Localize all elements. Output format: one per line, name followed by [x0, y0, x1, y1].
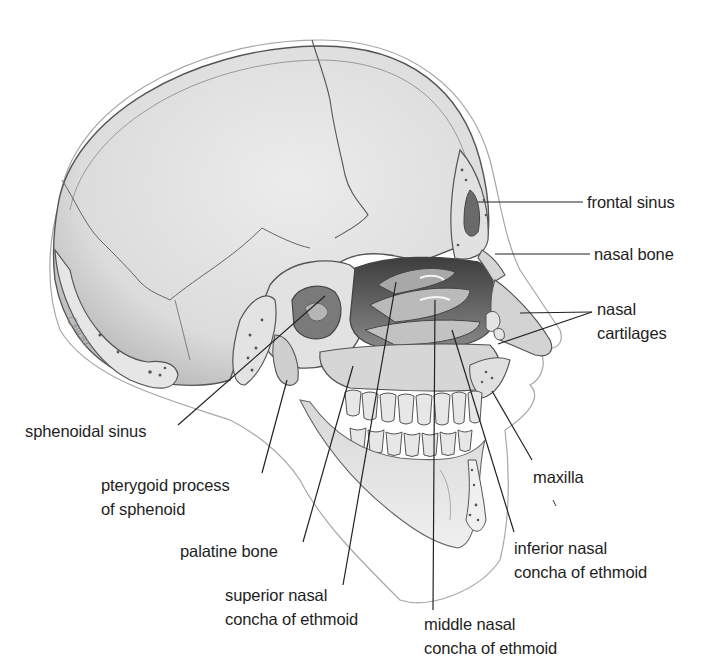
- label-palatine-bone: palatine bone: [180, 539, 278, 563]
- nasal-cavity: [350, 257, 494, 350]
- nose: [486, 280, 552, 356]
- label-middle-nasal-concha: middle nasal concha of ethmoid: [424, 612, 557, 660]
- label-pterygoid-process: pterygoid process of sphenoid: [101, 473, 230, 521]
- skull-diagram: ◯ℓɯ 83: [0, 0, 721, 667]
- stray-mark: [553, 500, 556, 506]
- leader-maxilla: [492, 391, 532, 460]
- leader-nasal-cartilages-a: [520, 312, 592, 313]
- label-maxilla: maxilla: [533, 465, 584, 489]
- teeth: [345, 390, 482, 457]
- label-nasal-cartilages: nasal cartilages: [597, 297, 667, 345]
- label-frontal-sinus: frontal sinus: [587, 190, 675, 214]
- label-superior-nasal-concha: superior nasal concha of ethmoid: [225, 583, 358, 631]
- label-nasal-bone: nasal bone: [594, 242, 674, 266]
- label-sphenoidal-sinus: sphenoidal sinus: [25, 419, 146, 443]
- label-inferior-nasal-concha: inferior nasal concha of ethmoid: [514, 536, 647, 584]
